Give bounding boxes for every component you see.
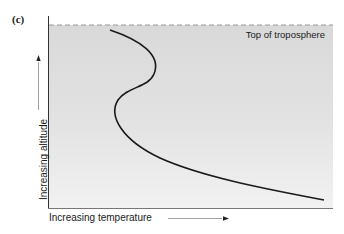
temperature-curve [110, 30, 324, 200]
y-arrow-icon [36, 55, 40, 110]
x-axis-label: Increasing temperature [49, 212, 152, 223]
y-axis-label: Increasing altitude [38, 119, 49, 200]
troposphere-label: Top of troposphere [246, 29, 325, 40]
x-arrow-icon [168, 216, 229, 220]
